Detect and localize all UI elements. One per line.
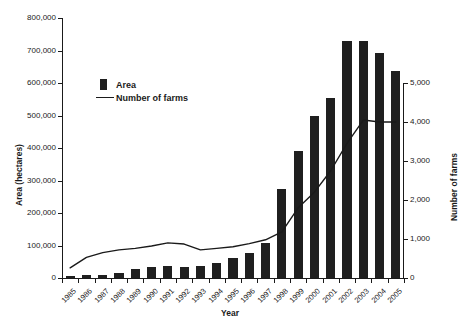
y-axis-right-tick [404, 239, 408, 240]
x-axis-tick [274, 279, 275, 283]
y-axis-left-tick-label: 700,000 [27, 47, 56, 55]
y-axis-left-title: Area (hectares) [14, 130, 24, 220]
x-axis-tick [371, 279, 372, 283]
x-axis-tick [111, 279, 112, 283]
y-axis-left-tick-label: 500,000 [27, 112, 56, 120]
x-axis-tick [78, 279, 79, 283]
x-axis-title: Year [170, 308, 290, 318]
x-axis-tick [404, 279, 405, 283]
legend-label-area: Area [116, 80, 136, 90]
x-axis-tick [355, 279, 356, 283]
y-axis-left-tick-label: 0 [52, 274, 56, 282]
x-axis-tick [257, 279, 258, 283]
y-axis-left-tick-label: 200,000 [27, 209, 56, 217]
chart-legend: Area Number of farms [96, 78, 188, 104]
y-axis-right-tick-label: 5,000 [410, 79, 430, 87]
x-axis-tick [290, 279, 291, 283]
y-axis-left-tick-label: 300,000 [27, 177, 56, 185]
y-axis-right-tick [404, 161, 408, 162]
x-axis-tick [241, 279, 242, 283]
x-axis-tick [160, 279, 161, 283]
x-axis-tick [306, 279, 307, 283]
legend-line-swatch-icon [96, 97, 114, 98]
legend-item-number-of-farms: Number of farms [96, 91, 188, 104]
line-series-number-of-farms [62, 18, 404, 278]
y-axis-right-tick-label: 3,000 [410, 157, 430, 165]
x-axis-tick [192, 279, 193, 283]
x-axis-tick [323, 279, 324, 283]
x-axis-tick [176, 279, 177, 283]
farms-polyline [70, 120, 396, 268]
x-axis-tick [62, 279, 63, 283]
x-axis-tick [143, 279, 144, 283]
y-axis-right-tick-label: 1,000 [410, 235, 430, 243]
legend-item-area: Area [96, 78, 188, 91]
x-axis-tick [95, 279, 96, 283]
y-axis-left-tick-label: 400,000 [27, 144, 56, 152]
y-axis-right-tick-label: 2,000 [410, 196, 430, 204]
x-axis-tick [127, 279, 128, 283]
y-axis-right-tick [404, 83, 408, 84]
chart-figure: 0100,000200,000300,000400,000500,000600,… [0, 0, 460, 324]
y-axis-left-tick-label: 800,000 [27, 14, 56, 22]
y-axis-right-tick [404, 122, 408, 123]
x-axis-tick [209, 279, 210, 283]
y-axis-left-tick-label: 100,000 [27, 242, 56, 250]
y-axis-right-tick [404, 200, 408, 201]
y-axis-right-tick-label: 4,000 [410, 118, 430, 126]
x-axis-tick [339, 279, 340, 283]
legend-label-number-of-farms: Number of farms [116, 93, 188, 103]
x-axis-line [62, 278, 404, 279]
y-axis-right-tick-label: 0 [410, 274, 414, 282]
x-axis-tick [388, 279, 389, 283]
plot-area [62, 18, 404, 278]
y-axis-right-title: Number of farms [449, 137, 459, 237]
legend-square-swatch-icon [100, 79, 107, 90]
y-axis-left-tick-label: 600,000 [27, 79, 56, 87]
x-axis-tick [225, 279, 226, 283]
